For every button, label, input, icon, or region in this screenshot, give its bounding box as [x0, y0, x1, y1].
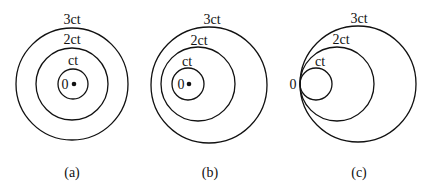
panel-c: 3ct 2ct ct 0 (c) [290, 11, 417, 181]
ring-3ct [151, 27, 267, 143]
origin-dot [72, 82, 77, 87]
origin-label: 0 [290, 77, 297, 92]
label-2ct: 2ct [190, 33, 207, 48]
label-ct: ct [68, 53, 78, 68]
label-2ct: 2ct [63, 32, 80, 47]
label-3ct: 3ct [350, 11, 367, 26]
panel-a: 3ct 2ct ct 0 (a) [16, 12, 128, 181]
ring-3ct [300, 26, 416, 142]
origin-label: 0 [178, 77, 185, 92]
label-ct: ct [315, 54, 325, 69]
caption-c: (c) [351, 165, 367, 181]
origin-label: 0 [62, 77, 69, 92]
panel-b: 3ct 2ct ct 0 (b) [151, 12, 267, 181]
light-cone-diagram: 3ct 2ct ct 0 (a) 3ct 2ct ct 0 (b) 3ct 2c… [0, 0, 430, 189]
label-2ct: 2ct [332, 32, 349, 47]
caption-b: (b) [202, 165, 219, 181]
label-ct: ct [182, 54, 192, 69]
label-3ct: 3ct [63, 12, 80, 27]
label-3ct: 3ct [203, 12, 220, 27]
ring-2ct [300, 47, 374, 121]
caption-a: (a) [64, 165, 80, 181]
ring-ct [300, 68, 332, 100]
origin-dot [187, 82, 192, 87]
